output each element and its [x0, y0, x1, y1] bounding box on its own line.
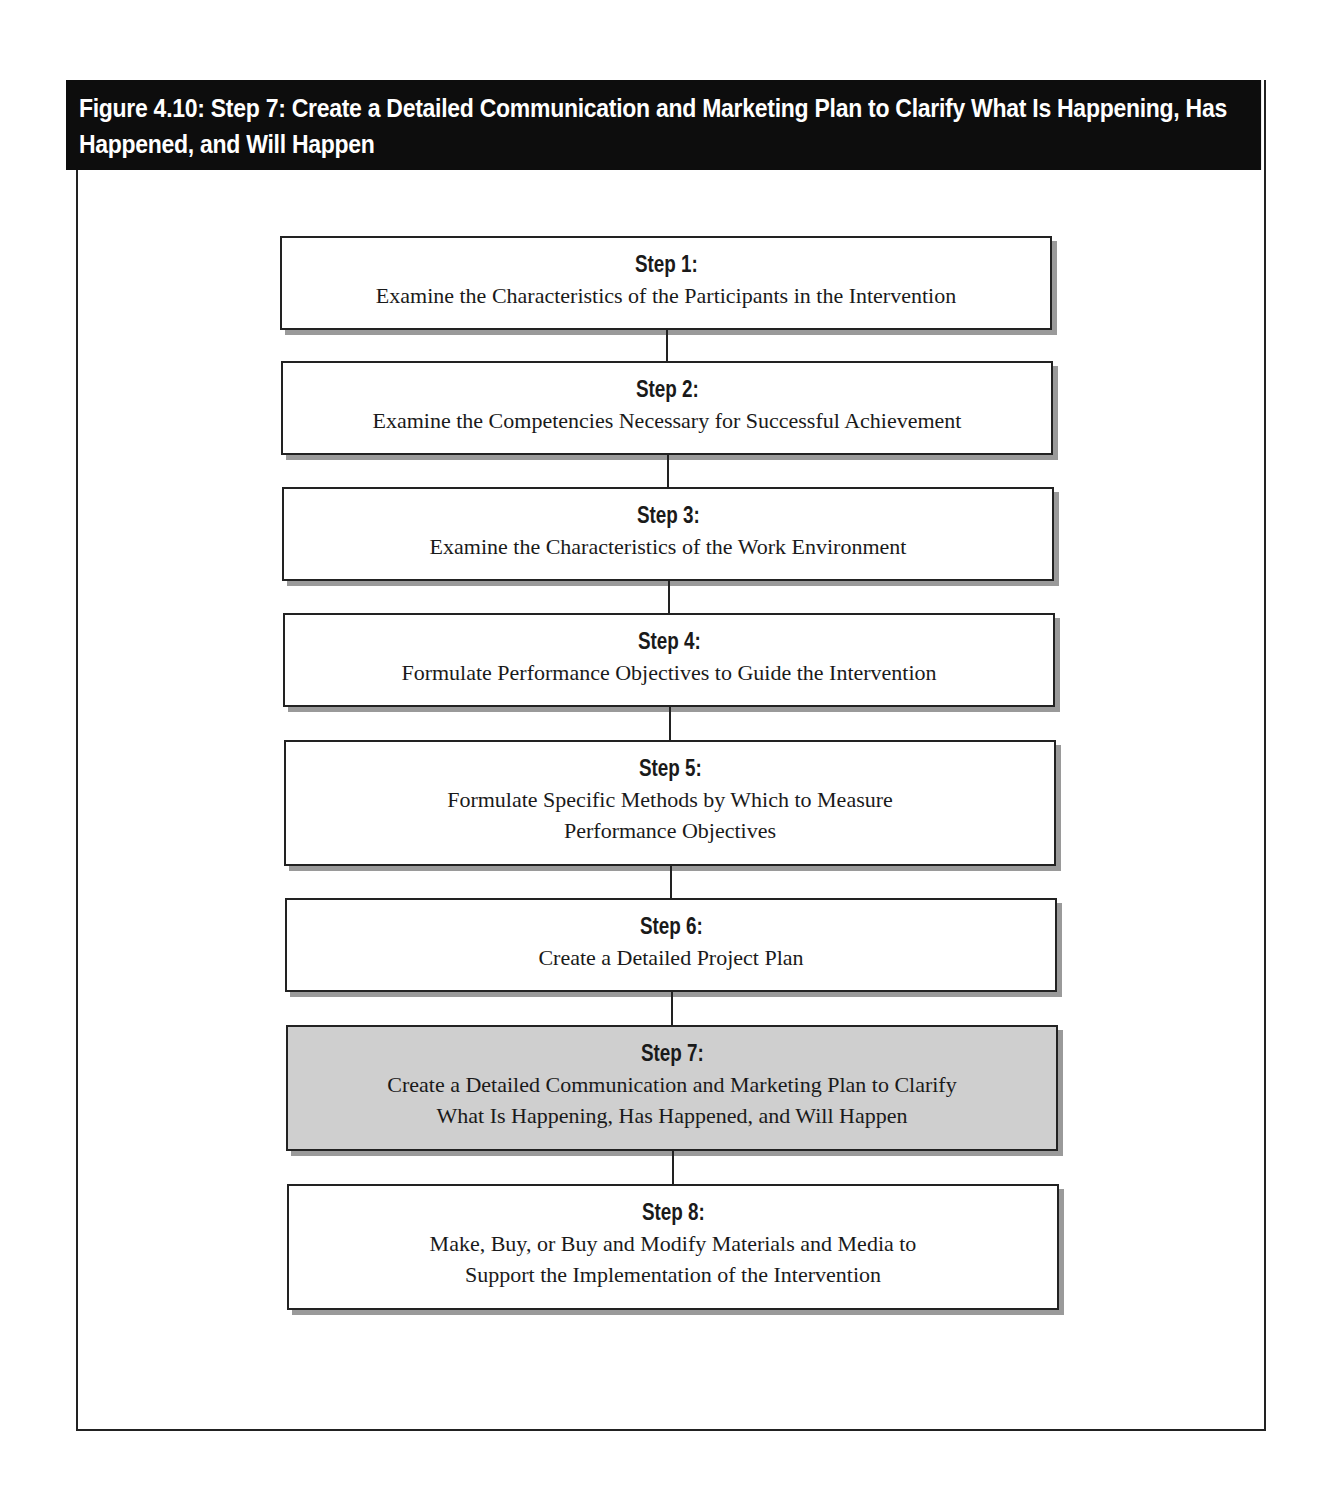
step-label: Step 5: — [639, 754, 702, 782]
step-label: Step 8: — [642, 1198, 705, 1226]
step-label: Step 6: — [640, 912, 703, 940]
connector-line — [672, 1151, 674, 1185]
step-description-line-1: Create a Detailed Communication and Mark… — [288, 1069, 1056, 1100]
step-description: Examine the Characteristics of the Parti… — [282, 280, 1050, 311]
connector-line — [668, 581, 670, 614]
step-5-box: Step 5: Formulate Specific Methods by Wh… — [284, 740, 1056, 866]
step-1-box: Step 1: Examine the Characteristics of t… — [280, 236, 1052, 330]
step-description-line-2: Support the Implementation of the Interv… — [289, 1259, 1057, 1290]
step-label: Step 7: — [641, 1039, 704, 1067]
connector-line — [669, 707, 671, 741]
step-label: Step 2: — [636, 375, 699, 403]
step-label: Step 1: — [635, 250, 698, 278]
connector-line — [671, 992, 673, 1026]
step-3-box: Step 3: Examine the Characteristics of t… — [282, 487, 1054, 581]
step-description-line-2: What Is Happening, Has Happened, and Wil… — [288, 1100, 1056, 1131]
step-description: Examine the Competencies Necessary for S… — [283, 405, 1051, 436]
step-8-box: Step 8: Make, Buy, or Buy and Modify Mat… — [287, 1184, 1059, 1310]
step-label: Step 3: — [637, 501, 700, 529]
step-description: Create a Detailed Project Plan — [287, 942, 1055, 973]
step-description-line-1: Formulate Specific Methods by Which to M… — [286, 784, 1054, 815]
step-7-box: Step 7: Create a Detailed Communication … — [286, 1025, 1058, 1151]
step-4-box: Step 4: Formulate Performance Objectives… — [283, 613, 1055, 707]
step-description: Formulate Performance Objectives to Guid… — [285, 657, 1053, 688]
step-description: Examine the Characteristics of the Work … — [284, 531, 1052, 562]
step-description-line-2: Performance Objectives — [286, 815, 1054, 846]
step-6-box: Step 6: Create a Detailed Project Plan — [285, 898, 1057, 992]
connector-line — [670, 866, 672, 899]
step-label: Step 4: — [638, 627, 701, 655]
figure-title: Figure 4.10: Step 7: Create a Detailed C… — [66, 80, 1261, 170]
connector-line — [667, 455, 669, 488]
connector-line — [666, 330, 668, 362]
step-2-box: Step 2: Examine the Competencies Necessa… — [281, 361, 1053, 455]
step-description-line-1: Make, Buy, or Buy and Modify Materials a… — [289, 1228, 1057, 1259]
